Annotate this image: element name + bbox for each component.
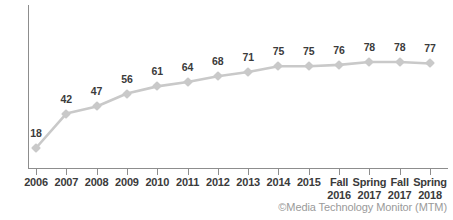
- x-axis-tick-label: 2011: [176, 176, 199, 189]
- data-value-label: 78: [364, 41, 375, 53]
- x-axis-tick-label: 2012: [206, 176, 230, 189]
- x-axis-tick-label: 2008: [85, 176, 109, 189]
- x-axis-tick-label: Spring2018: [413, 176, 447, 201]
- data-value-label: 76: [333, 44, 344, 56]
- x-axis-tick-label: 2014: [267, 176, 291, 189]
- x-axis-tick-label: 2015: [297, 176, 321, 189]
- x-axis-tick-label: Fall2017: [388, 176, 412, 201]
- x-axis-tick: [339, 169, 340, 175]
- data-value-label: 47: [91, 85, 102, 97]
- x-axis-tick-label: Spring2017: [353, 176, 387, 201]
- data-value-label: 56: [121, 73, 132, 85]
- x-axis-tick: [430, 169, 431, 175]
- x-axis-tick: [369, 169, 370, 175]
- x-axis-tick: [218, 169, 219, 175]
- x-axis-tick: [127, 169, 128, 175]
- data-value-label: 75: [303, 45, 314, 57]
- x-axis-tick: [97, 169, 98, 175]
- x-axis-tick-label: 2007: [54, 176, 78, 189]
- data-value-label: 68: [212, 55, 223, 67]
- data-value-label: 18: [30, 127, 41, 139]
- data-value-label: 42: [61, 93, 72, 105]
- data-value-label: 77: [424, 42, 435, 54]
- data-value-label: 64: [182, 61, 193, 73]
- line-chart-figure: 1842475661646871757576787877 20062007200…: [0, 0, 453, 220]
- x-axis-tick-label: Fall2016: [327, 176, 351, 201]
- data-value-label: 75: [273, 45, 284, 57]
- data-value-label: 61: [151, 65, 162, 77]
- plot-area: [0, 0, 453, 169]
- x-axis-tick: [248, 169, 249, 175]
- x-axis-tick: [309, 169, 310, 175]
- x-axis-tick: [66, 169, 67, 175]
- x-axis-tick: [188, 169, 189, 175]
- x-axis-tick-label: 2006: [24, 176, 48, 189]
- x-axis-tick: [400, 169, 401, 175]
- x-axis-tick-label: 2013: [236, 176, 260, 189]
- data-value-label: 78: [394, 41, 405, 53]
- series-line: [0, 0, 453, 169]
- x-axis-tick: [36, 169, 37, 175]
- x-axis-tick: [157, 169, 158, 175]
- data-value-label: 71: [242, 51, 253, 63]
- x-axis-tick-label: 2009: [115, 176, 139, 189]
- x-axis-tick-label: 2010: [145, 176, 169, 189]
- x-axis-tick: [278, 169, 279, 175]
- copyright-note: ©Media Technology Monitor (MTM): [278, 201, 447, 213]
